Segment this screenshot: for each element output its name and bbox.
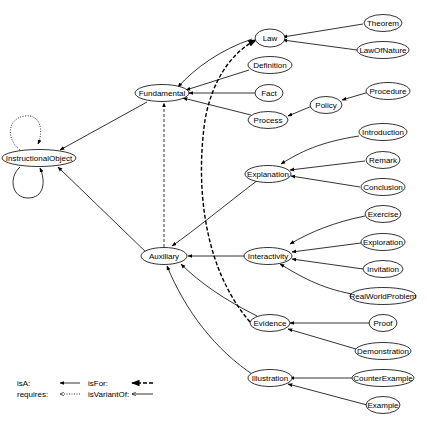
edge-policy-process [288, 106, 312, 116]
edge-remark-explanation [290, 161, 365, 170]
node-auxiliary[interactable]: Auxiliary [141, 248, 187, 265]
svg-text:Illustration: Illustration [252, 374, 288, 383]
edge-introduction-explanation [281, 136, 359, 164]
node-counter-example[interactable]: CounterExample [352, 370, 414, 387]
svg-text:Policy: Policy [315, 101, 336, 110]
legend: isA: isFor: requires: isVariantOf: [17, 379, 153, 399]
legend-requires-label: requires: [17, 390, 48, 399]
node-exploration[interactable]: Exploration [361, 234, 405, 251]
node-conclusion[interactable]: Conclusion [361, 179, 405, 196]
svg-text:Theorem: Theorem [367, 19, 399, 28]
svg-text:Process: Process [254, 116, 283, 125]
edge-law-fundamental [178, 39, 252, 87]
svg-text:Example: Example [367, 401, 399, 410]
svg-text:LawOfNature: LawOfNature [359, 46, 407, 55]
node-evidence[interactable]: Evidence [250, 315, 290, 332]
svg-text:Explanation: Explanation [247, 170, 289, 179]
edge-procedure-policy [342, 92, 369, 100]
node-interactivity[interactable]: Interactivity [244, 248, 292, 265]
svg-text:Fact: Fact [261, 89, 277, 98]
node-real-world-problem[interactable]: RealWorldProblem [350, 288, 417, 305]
svg-text:RealWorldProblem: RealWorldProblem [350, 292, 417, 301]
edge-invitation-interactivity [292, 259, 363, 269]
svg-text:Introduction: Introduction [362, 128, 404, 137]
svg-text:Exercise: Exercise [368, 210, 399, 219]
node-fact[interactable]: Fact [255, 85, 283, 102]
node-remark[interactable]: Remark [366, 152, 400, 169]
edge-lawofnature-law [283, 40, 357, 50]
node-example[interactable]: Example [366, 397, 400, 414]
legend-isfor-label: isFor: [88, 379, 108, 388]
node-proof[interactable]: Proof [369, 315, 397, 332]
svg-text:Invitation: Invitation [367, 265, 399, 274]
node-demonstration[interactable]: Demonstration [355, 343, 411, 360]
ontology-diagram: InstructionalObject Fundamental Auxiliar… [0, 0, 427, 422]
legend-isa-label: isA: [17, 379, 30, 388]
svg-text:Exploration: Exploration [363, 238, 403, 247]
edge-conclusion-explanation [291, 176, 360, 187]
svg-text:Fundamental: Fundamental [139, 89, 186, 98]
node-law[interactable]: Law [255, 29, 285, 47]
svg-text:Conclusion: Conclusion [363, 183, 403, 192]
edge-example-illustration [288, 384, 367, 405]
svg-text:Definition: Definition [253, 61, 286, 70]
svg-text:Law: Law [263, 34, 278, 43]
svg-text:Demonstration: Demonstration [357, 347, 409, 356]
svg-text:InstructionalObject: InstructionalObject [6, 154, 73, 163]
edge-demonstration-evidence [288, 329, 356, 349]
edge-rwp-interactivity [280, 264, 352, 294]
node-procedure[interactable]: Procedure [366, 83, 410, 100]
node-definition[interactable]: Definition [248, 57, 292, 74]
svg-text:Remark: Remark [369, 156, 398, 165]
node-introduction[interactable]: Introduction [359, 124, 407, 141]
edge-process-fundamental [183, 98, 251, 115]
edge-isa-self [13, 167, 43, 198]
edge-exploration-interactivity [292, 243, 361, 252]
svg-text:Interactivity: Interactivity [248, 252, 288, 261]
edges [10, 24, 370, 405]
node-instructional-object[interactable]: InstructionalObject [2, 150, 76, 167]
edge-explanation-auxiliary [172, 180, 258, 246]
node-fundamental[interactable]: Fundamental [135, 85, 189, 102]
svg-text:CounterExample: CounterExample [353, 374, 413, 383]
node-exercise[interactable]: Exercise [365, 206, 401, 223]
node-process[interactable]: Process [248, 112, 288, 129]
svg-text:Auxiliary: Auxiliary [149, 252, 179, 261]
node-theorem[interactable]: Theorem [364, 15, 402, 32]
legend-isvariantof-label: isVariantOf: [88, 390, 129, 399]
node-illustration[interactable]: Illustration [248, 370, 292, 387]
edge-evidence-auxiliary [181, 264, 257, 316]
edge-requires-self [10, 116, 40, 150]
edge-auxiliary-io [58, 167, 150, 256]
node-explanation[interactable]: Explanation [245, 166, 291, 183]
node-policy[interactable]: Policy [310, 97, 342, 114]
nodes: InstructionalObject Fundamental Auxiliar… [2, 15, 417, 414]
svg-text:Evidence: Evidence [254, 319, 287, 328]
node-law-of-nature[interactable]: LawOfNature [357, 42, 409, 59]
edge-theorem-law [283, 24, 363, 37]
svg-text:Procedure: Procedure [370, 87, 407, 96]
node-invitation[interactable]: Invitation [363, 261, 403, 278]
edge-exercise-interactivity [290, 216, 365, 244]
svg-text:Proof: Proof [373, 319, 393, 328]
edge-illustration-auxiliary [167, 266, 255, 376]
edge-fundamental-io [60, 102, 147, 150]
